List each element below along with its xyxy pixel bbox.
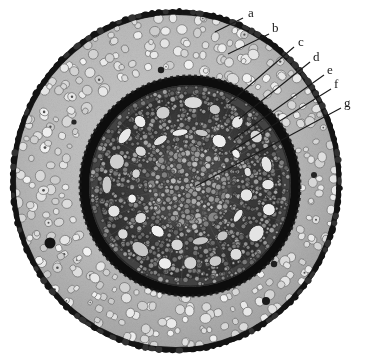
stele-cell xyxy=(204,278,207,281)
stele-cell xyxy=(185,247,189,251)
callout-label-a[interactable]: a xyxy=(248,6,254,19)
pith-cell xyxy=(222,165,226,169)
callout-label-g[interactable]: g xyxy=(344,96,351,109)
callout-label-b[interactable]: b xyxy=(272,21,279,34)
stele-cell xyxy=(232,182,236,186)
metaxylem-vessel xyxy=(102,176,112,194)
stele-cell xyxy=(127,249,131,253)
pith-cell xyxy=(161,172,167,178)
stele-cell xyxy=(179,232,184,237)
stele-cell xyxy=(278,211,282,215)
stele-cell xyxy=(146,106,149,109)
cortex-cell xyxy=(201,327,208,334)
stele-cell xyxy=(91,194,95,198)
pith-cell xyxy=(180,197,185,202)
stele-cell xyxy=(223,226,227,230)
stele-cell xyxy=(227,244,230,247)
stele-cell xyxy=(250,250,254,254)
stele-cell xyxy=(232,262,235,265)
pith-cell xyxy=(165,186,168,189)
cortex-cell xyxy=(51,198,59,205)
cortex-cell xyxy=(316,176,323,182)
stele-cell xyxy=(157,253,161,257)
callout-label-d[interactable]: d xyxy=(313,50,320,63)
stele-cell xyxy=(123,252,128,257)
stele-cell xyxy=(248,113,253,118)
pith-cell xyxy=(148,189,152,193)
pith-cell xyxy=(171,170,174,173)
stele-cell xyxy=(117,125,120,128)
stele-cell xyxy=(109,173,112,176)
cell-nucleus xyxy=(43,111,46,114)
stele-cell xyxy=(179,122,184,127)
stele-cell xyxy=(90,178,94,182)
pith-cell xyxy=(181,151,186,156)
pith-cell xyxy=(214,215,219,220)
cell-nucleus xyxy=(56,266,59,269)
stele-cell xyxy=(183,91,187,95)
cortex-cell xyxy=(182,316,188,323)
stele-cell xyxy=(172,144,175,147)
stele-cell xyxy=(250,185,254,189)
stele-cell xyxy=(203,87,208,92)
stele-cell xyxy=(241,180,245,184)
stele-cell xyxy=(220,272,224,276)
pith-cell xyxy=(161,193,165,197)
stele-cell xyxy=(211,275,215,279)
stele-cell xyxy=(96,195,99,198)
stele-cell xyxy=(111,238,114,241)
stele-cell xyxy=(127,112,130,115)
cell-nucleus xyxy=(315,219,317,221)
pith-cell xyxy=(205,163,211,169)
pith-cell xyxy=(167,205,172,210)
pith-cell xyxy=(172,196,177,201)
stele-cell xyxy=(150,95,153,98)
stele-cell xyxy=(183,277,188,282)
stele-cell xyxy=(260,218,264,222)
stele-cell xyxy=(161,251,165,255)
stele-cell xyxy=(268,223,272,227)
pith-cell xyxy=(185,173,189,177)
stele-cell xyxy=(255,175,258,178)
stele-cell xyxy=(252,169,256,173)
stele-cell xyxy=(245,251,250,256)
stele-cell xyxy=(202,109,206,113)
stele-cell xyxy=(247,216,251,220)
pith-cell xyxy=(213,156,218,161)
stele-cell xyxy=(230,111,234,115)
cell-nucleus xyxy=(71,96,73,98)
cortex-cell xyxy=(26,201,34,209)
pith-cell xyxy=(184,226,187,229)
stele-cell xyxy=(177,256,181,260)
stele-cell xyxy=(138,159,141,162)
pith-cell xyxy=(211,162,214,165)
pith-cell xyxy=(204,149,208,153)
stele-cell xyxy=(137,196,141,200)
stele-cell xyxy=(100,142,104,146)
pith-cell xyxy=(196,176,201,181)
cortex-cell xyxy=(161,27,171,36)
stele-cell xyxy=(101,162,106,167)
stele-cell xyxy=(138,201,142,205)
stele-cell xyxy=(207,234,210,237)
pith-cell xyxy=(215,184,221,190)
cortex-cell xyxy=(182,338,189,346)
cell-nucleus xyxy=(304,272,306,274)
pith-cell xyxy=(189,183,193,187)
callout-label-c[interactable]: c xyxy=(298,35,304,48)
stele-cell xyxy=(94,188,99,193)
stele-cell xyxy=(205,273,208,276)
callout-label-f[interactable]: f xyxy=(334,77,338,90)
stele-cell xyxy=(91,170,96,175)
cell-nucleus xyxy=(90,302,91,303)
pith-cell xyxy=(185,198,191,204)
stele-cell xyxy=(165,238,168,241)
stele-cell xyxy=(195,86,198,89)
cortex-cell xyxy=(175,328,180,334)
stele-cell xyxy=(236,179,240,183)
stele-cell xyxy=(256,254,261,259)
stele-cell xyxy=(125,151,129,155)
stele-cell xyxy=(104,143,108,147)
cortex-cell xyxy=(308,198,314,204)
callout-label-e[interactable]: e xyxy=(327,63,333,76)
